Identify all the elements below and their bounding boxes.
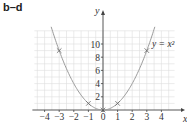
svg-text:10: 10 [91, 40, 101, 50]
svg-text:−4: −4 [40, 112, 50, 122]
svg-text:0: 0 [101, 112, 106, 122]
svg-text:4: 4 [95, 79, 100, 89]
y-axis-label: y [94, 5, 100, 16]
svg-text:−2: −2 [69, 112, 79, 122]
svg-text:−1: −1 [83, 112, 93, 122]
svg-text:3: 3 [144, 112, 149, 122]
x-axis-label: x [182, 113, 187, 124]
svg-text:1: 1 [115, 112, 120, 122]
svg-text:2: 2 [130, 112, 135, 122]
svg-text:4: 4 [159, 112, 164, 122]
svg-text:8: 8 [95, 53, 100, 63]
svg-text:6: 6 [95, 66, 100, 76]
svg-text:2: 2 [95, 92, 100, 102]
svg-text:−3: −3 [54, 112, 64, 122]
parabola-chart: −4−3−2−101234246810 y = x² y x [0, 0, 187, 128]
curve-label: y = x² [151, 39, 175, 49]
